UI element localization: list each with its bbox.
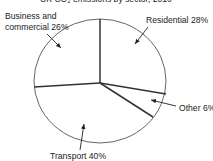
pie-chart: UK CO₂ emissions by sector, 2010 Busines… [0,0,213,161]
chart-title: UK CO₂ emissions by sector, 2010 [40,0,172,4]
label-residential: Residential 28% [146,15,208,25]
label-other: Other 6% [179,103,213,113]
label-transport: Transport 40% [50,151,106,161]
label-business-line1: Business and [5,11,57,21]
label-business-line2: commercial 26% [5,22,69,32]
